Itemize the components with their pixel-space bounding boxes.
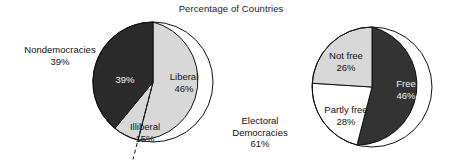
label-liberal: Liberal 46% [160,71,208,94]
label-electoral-percent: 61% [212,138,308,150]
chart-figure: Percentage of Countries Nondemocracies 3… [0,0,462,168]
label-partly-free-name: Partly free [312,104,380,116]
label-liberal-percent: 46% [160,83,208,95]
label-illiberal-percent: 15% [118,133,172,145]
label-nondemocracies-name: Nondemocracies [10,44,110,56]
label-partly-free: Partly free 28% [312,104,380,127]
label-not-free-name: Not free [318,50,374,62]
label-electoral-democracies: Electoral Democracies 61% [212,115,308,150]
label-partly-free-percent: 28% [312,116,380,128]
label-electoral-line1: Electoral [212,115,308,127]
label-electoral-line2: Democracies [212,127,308,139]
label-nondemocracies-percent: 39% [10,56,110,68]
label-not-free-percent: 26% [318,62,374,74]
label-free: Free 46% [386,78,426,101]
label-liberal-name: Liberal [160,71,208,83]
label-illiberal: Illiberal 15% [118,121,172,144]
label-not-free: Not free 26% [318,50,374,73]
label-nondemocracies-inner-percent: 39% [105,74,145,86]
label-free-percent: 46% [386,90,426,102]
label-nondemocracies: Nondemocracies 39% [10,44,110,67]
label-illiberal-name: Illiberal [118,121,172,133]
label-free-name: Free [386,78,426,90]
